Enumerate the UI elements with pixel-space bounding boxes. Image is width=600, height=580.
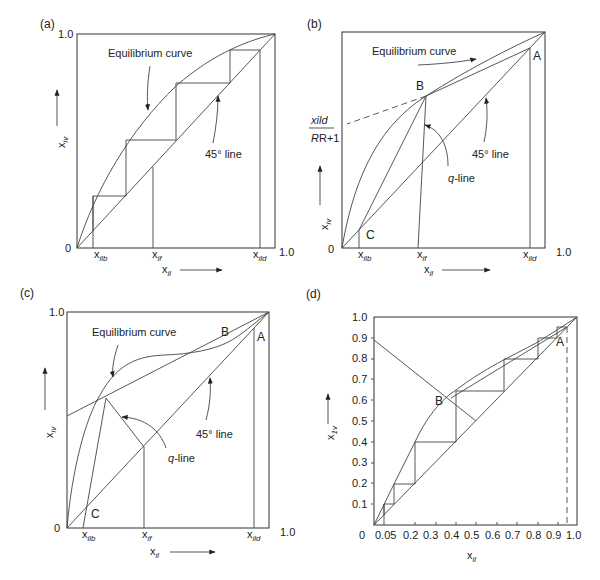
panel-a-ytop: 1.0 — [58, 28, 73, 40]
svg-text:xiv: xiv — [55, 136, 70, 148]
panel-c-45-label: 45° line — [196, 428, 233, 440]
panel-b-q-line — [418, 96, 426, 248]
panel-b-y-axis-label: xiv — [318, 218, 333, 230]
point-a: A — [556, 335, 564, 349]
panel-b-qline-label: q-line — [448, 172, 475, 184]
panel-c-tick-xilb: xilb — [82, 528, 96, 543]
panel-a-y-axis-label: xiv — [55, 136, 70, 148]
svg-text:0.8: 0.8 — [352, 352, 367, 364]
svg-text:0.4: 0.4 — [352, 436, 367, 448]
panel-a-x-axis-label: xil — [162, 263, 171, 278]
panel-c-tick-xild: xild — [247, 528, 261, 543]
panel-b-45-line — [342, 32, 545, 248]
svg-text:0.5: 0.5 — [352, 415, 367, 427]
panel-c-x-axis-label: xil — [150, 545, 159, 560]
panel-c-ytop: 1.0 — [49, 306, 64, 318]
svg-text:1.0: 1.0 — [566, 529, 581, 541]
panel-a-equilibrium-arrow — [147, 66, 150, 110]
svg-text:0.5: 0.5 — [464, 529, 479, 541]
panel-b-x-axis-label: xil — [424, 263, 433, 278]
panel-c-q-line — [106, 398, 144, 447]
panel-a-45-line — [77, 34, 275, 248]
point-b: B — [416, 79, 424, 93]
point-a: A — [257, 330, 265, 344]
svg-text:0.1: 0.1 — [352, 498, 367, 510]
panel-a-origin: 0 — [65, 242, 71, 254]
point-b: B — [435, 394, 443, 408]
panel-b-qline-arrow — [425, 125, 448, 166]
panel-c-45-arrow — [206, 378, 210, 420]
svg-text:0.3: 0.3 — [423, 529, 438, 541]
panel-c-tick-xif: xif — [142, 528, 152, 543]
svg-text:0.05: 0.05 — [375, 529, 396, 541]
panel-c-origin: 0 — [54, 522, 60, 534]
svg-text:0.3: 0.3 — [352, 456, 367, 468]
svg-text:0.6: 0.6 — [352, 394, 367, 406]
panel-b-45-arrow — [484, 98, 487, 142]
svg-text:0.7: 0.7 — [505, 529, 520, 541]
panel-a: (a) 1.0 0 1.0 Equilibrium curve 45° line… — [40, 17, 294, 278]
panel-c: (c) 1.0 0 1.0 A B C Equilibrium curve 45… — [20, 286, 295, 560]
panel-a-tick-xilb: xilb — [94, 248, 108, 263]
panel-a-45-arrow — [213, 96, 218, 143]
panel-c-45-line — [67, 312, 269, 528]
panel-c-qline-arrow — [122, 417, 166, 448]
panel-d-x-ticks: 0 0.05 0.2 0.3 0.4 0.5 0.6 0.7 0.8 0.9 1… — [359, 529, 581, 541]
panel-a-tick-xif: xif — [152, 248, 162, 263]
svg-text:xiv: xiv — [43, 426, 58, 438]
svg-text:0.9: 0.9 — [352, 332, 367, 344]
svg-text:0.8: 0.8 — [526, 529, 541, 541]
panel-b-equilibrium-label: Equilibrium curve — [372, 45, 456, 57]
panel-b-tick-xild: xild — [523, 248, 537, 263]
point-a: A — [533, 49, 541, 63]
panel-b: (b) 0 1.0 A B C Equilibrium curve 45° li… — [307, 17, 571, 278]
panel-b-tick-xilb: xilb — [358, 248, 372, 263]
panel-b-45-label: 45° line — [472, 148, 509, 160]
svg-text:0.9: 0.9 — [546, 529, 561, 541]
svg-text:0.2: 0.2 — [352, 477, 367, 489]
panel-b-intercept-numerator: xild — [310, 114, 328, 126]
panel-a-45-label: 45° line — [205, 148, 242, 160]
svg-text:x1v: x1v — [324, 425, 339, 440]
panel-b-label: (b) — [307, 17, 322, 31]
panel-a-equilibrium-label: Equilibrium curve — [108, 47, 192, 59]
svg-text:1.0: 1.0 — [352, 311, 367, 323]
svg-text:xiv: xiv — [318, 218, 333, 230]
svg-text:0: 0 — [359, 529, 365, 541]
point-c: C — [91, 507, 100, 521]
panel-c-y-axis-label: xiv — [43, 426, 58, 438]
point-c: C — [366, 228, 375, 242]
panel-d-y-ticks: 1.0 0.9 0.8 0.7 0.6 0.5 0.4 0.3 0.2 0.1 — [352, 311, 367, 510]
panel-c-label: (c) — [20, 286, 34, 300]
panel-b-tick-xif: xif — [417, 248, 427, 263]
panel-b-xright: 1.0 — [556, 246, 571, 258]
panel-c-qline-label: q-line — [168, 452, 195, 464]
point-b: B — [221, 325, 229, 339]
panel-b-origin: 0 — [328, 243, 334, 255]
panel-d-y-axis-label: x1v — [324, 425, 339, 440]
panel-b-equilibrium-arrow — [418, 59, 476, 65]
panel-a-tick-xild: xild — [253, 248, 267, 263]
panel-b-intercept-denominator: RR+1 — [311, 132, 339, 144]
figure-canvas: (a) 1.0 0 1.0 Equilibrium curve 45° line… — [0, 0, 600, 580]
panel-a-xright: 1.0 — [279, 246, 294, 258]
panel-d-label: (d) — [306, 287, 321, 301]
svg-text:0.2: 0.2 — [403, 529, 418, 541]
panel-d: (d) 1.0 0.9 0.8 0.7 0.6 0.5 0.4 0.3 0.2 … — [306, 287, 581, 564]
panel-d-x-axis-label: xil — [467, 549, 476, 564]
svg-text:0.4: 0.4 — [444, 529, 459, 541]
svg-text:0.6: 0.6 — [485, 529, 500, 541]
svg-text:0.7: 0.7 — [352, 373, 367, 385]
panel-c-equilibrium-label: Equilibrium curve — [92, 326, 176, 338]
panel-a-label: (a) — [40, 17, 55, 31]
panel-c-xright: 1.0 — [280, 526, 295, 538]
panel-d-q-line — [374, 340, 476, 421]
